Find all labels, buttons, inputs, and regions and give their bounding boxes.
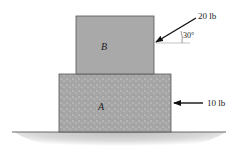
force-20lb-label: 20 lb — [198, 11, 217, 21]
block-b: B — [76, 16, 154, 74]
force-10lb: 10 lb — [174, 98, 226, 108]
stacked-blocks-diagram: A B 20 lb 30° 10 lb — [0, 0, 242, 156]
block-a: A — [59, 74, 171, 132]
block-b-label: B — [101, 41, 107, 52]
angle-label: 30° — [183, 31, 194, 40]
force-20lb: 20 lb 30° — [156, 11, 217, 43]
ground — [12, 132, 226, 152]
block-a-label: A — [97, 101, 105, 112]
force-10lb-label: 10 lb — [207, 98, 226, 108]
